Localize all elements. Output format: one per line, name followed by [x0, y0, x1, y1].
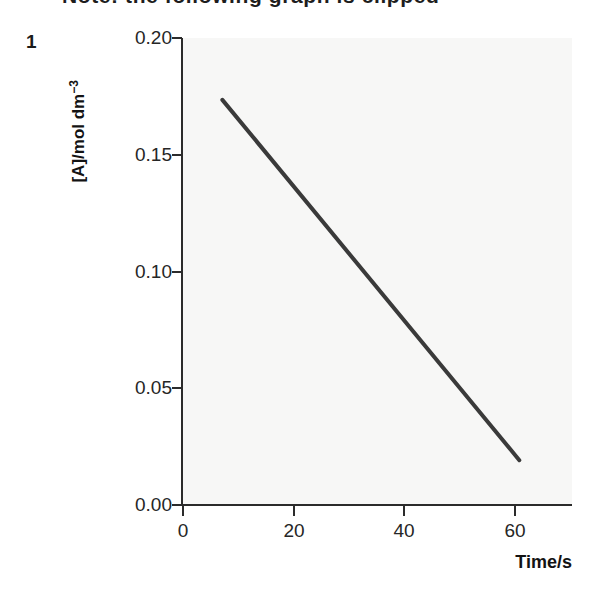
x-tick-mark: [514, 505, 516, 516]
x-tick-label: 40: [379, 520, 429, 542]
plot-area-background: [182, 38, 572, 505]
y-tick-mark: [172, 387, 182, 389]
x-tick-mark: [403, 505, 405, 516]
y-axis-title-exponent: −3: [67, 80, 81, 94]
y-tick-label: 0.05: [106, 377, 172, 399]
x-tick-label: 20: [269, 520, 319, 542]
y-tick-label: 0.20: [106, 27, 172, 49]
y-tick-mark: [172, 37, 182, 39]
x-axis-title: Time/s: [392, 552, 572, 573]
chart-figure: 0.00 0.05 0.10 0.15 0.20 0 20 40 60 [A]/…: [0, 0, 600, 595]
y-tick-mark: [172, 504, 182, 506]
y-tick-label: 0.00: [106, 494, 172, 516]
y-tick-label: 0.10: [106, 261, 172, 283]
y-tick-label: 0.15: [106, 144, 172, 166]
y-tick-mark: [172, 271, 182, 273]
x-tick-label: 0: [158, 520, 208, 542]
y-axis-title-text: [A]/mol dm: [69, 94, 88, 183]
x-tick-label: 60: [490, 520, 540, 542]
y-tick-mark: [172, 154, 182, 156]
x-tick-mark: [293, 505, 295, 516]
y-axis-title: [A]/mol dm−3: [67, 36, 90, 226]
x-tick-mark: [182, 505, 184, 516]
